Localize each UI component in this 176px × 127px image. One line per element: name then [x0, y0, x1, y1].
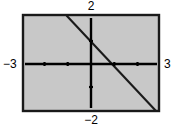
x-min-label: −3	[3, 58, 17, 70]
line-graph-figure: 2 −2 −3 3	[0, 0, 176, 127]
y-min-label: −2	[3, 114, 176, 126]
y-max-label: 2	[3, 0, 176, 12]
graph-screenshot: 2 −2 −3 3	[0, 0, 176, 127]
plot-canvas	[0, 0, 176, 127]
x-max-label: 3	[164, 58, 171, 70]
